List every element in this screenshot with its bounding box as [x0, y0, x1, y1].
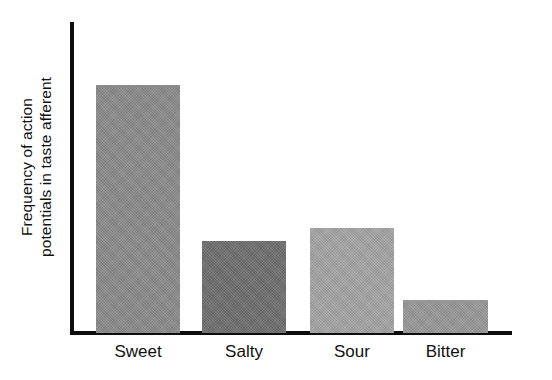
bar-sour[interactable]: [310, 228, 394, 333]
x-label-salty: Salty: [202, 339, 286, 365]
bar-sweet[interactable]: [96, 85, 180, 333]
x-label-bitter: Bitter: [403, 339, 488, 365]
bar-bitter[interactable]: [403, 300, 488, 333]
bar-salty[interactable]: [202, 241, 286, 333]
plot-area: Sweet Salty Sour Bitter: [0, 0, 552, 380]
bar-chart-figure: Frequency of action potentials in taste …: [0, 0, 552, 380]
x-label-sour: Sour: [310, 339, 394, 365]
x-label-sweet: Sweet: [96, 339, 180, 365]
